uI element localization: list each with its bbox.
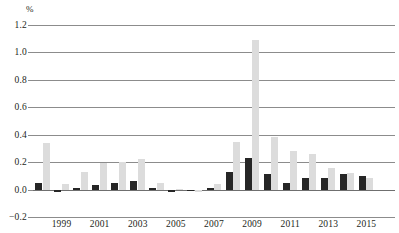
bar-group [168, 25, 183, 217]
bar-light-2014 [347, 173, 354, 189]
bar-dark-2013 [321, 178, 328, 190]
bar-dark-2009 [245, 158, 252, 190]
bar-light-2015 [366, 178, 373, 190]
y-axis-tick-label: 0.8 [15, 75, 27, 85]
x-axis-tick-label: 2005 [166, 219, 186, 229]
bar-light-1999 [62, 184, 69, 189]
plot-area: 1.21.00.80.60.40.20.0−0.2 [33, 25, 395, 217]
bar-light-2002 [119, 162, 126, 189]
bar-light-2003 [138, 159, 145, 189]
bar-light-2005 [176, 189, 183, 190]
x-axis-tick-label: 2011 [280, 219, 299, 229]
bar-group [359, 25, 374, 217]
bar-dark-2004 [149, 188, 156, 189]
x-axis: 199920012003200520072009201120132015 [33, 217, 395, 233]
bar-group [245, 25, 260, 217]
bar-light-2009 [252, 40, 259, 189]
bar-group [187, 25, 202, 217]
x-axis-tick-label: 2007 [204, 219, 224, 229]
bar-group [73, 25, 88, 217]
y-axis-tick-label: 1.2 [15, 20, 27, 30]
bar-chart: % 1.21.00.80.60.40.20.0−0.2 199920012003… [0, 0, 399, 233]
bar-dark-2005 [168, 190, 175, 193]
bar-group [92, 25, 107, 217]
bar-dark-1999 [54, 190, 61, 192]
x-axis-tick-label: 2001 [90, 219, 110, 229]
bar-light-2012 [309, 154, 316, 190]
bar-group [340, 25, 355, 217]
bar-group [149, 25, 164, 217]
bar-dark-2003 [130, 181, 137, 190]
bar-group [54, 25, 69, 217]
bar-group [378, 25, 393, 217]
bar-group [302, 25, 317, 217]
bar-light-2010 [271, 137, 278, 190]
bar-dark-2010 [264, 174, 271, 189]
bar-dark-2012 [302, 178, 309, 190]
bar-dark-2006 [187, 190, 194, 191]
y-axis-tick-label: 0.4 [15, 130, 27, 140]
bar-dark-1998 [35, 183, 42, 189]
x-axis-tick-label: 2013 [318, 219, 338, 229]
x-axis-tick-label: 2003 [128, 219, 148, 229]
bar-light-2007 [214, 184, 221, 189]
bar-dark-2002 [111, 183, 118, 190]
bar-dark-2014 [340, 174, 347, 190]
bar-light-2011 [290, 151, 297, 189]
x-axis-tick-label: 2009 [242, 219, 262, 229]
bar-group [207, 25, 222, 217]
bar-group [35, 25, 50, 217]
bar-group [111, 25, 126, 217]
bar-dark-2011 [283, 183, 290, 190]
bar-dark-2001 [92, 185, 99, 189]
bar-light-1998 [43, 143, 50, 190]
bars-layer [33, 25, 395, 217]
bar-dark-2008 [226, 172, 233, 189]
bar-group [283, 25, 298, 217]
bar-group [226, 25, 241, 217]
bar-light-2013 [328, 168, 335, 189]
y-axis-tick-label: 1.0 [15, 47, 27, 57]
y-axis-tick-label: −0.2 [9, 212, 27, 222]
bar-light-2008 [233, 142, 240, 190]
bar-dark-2015 [359, 176, 366, 190]
x-axis-tick-label: 1999 [52, 219, 72, 229]
bar-group [264, 25, 279, 217]
bar-light-2004 [157, 183, 164, 190]
y-axis-unit-label: % [26, 4, 34, 14]
bar-group [130, 25, 145, 217]
bar-dark-2000 [73, 188, 80, 190]
bar-light-2000 [81, 172, 88, 190]
y-axis-tick-label: 0.0 [15, 185, 27, 195]
bar-light-2006 [195, 190, 202, 193]
y-axis-tick-label: 0.2 [15, 157, 27, 167]
x-axis-tick-label: 2015 [357, 219, 377, 229]
y-axis-tick-label: 0.6 [15, 102, 27, 112]
bar-light-2001 [100, 163, 107, 190]
bar-group [321, 25, 336, 217]
bar-dark-2007 [207, 188, 214, 190]
